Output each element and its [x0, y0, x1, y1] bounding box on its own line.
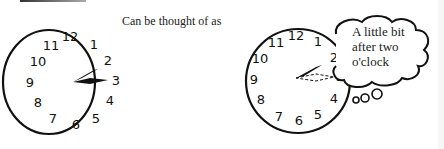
clock-number-5: 5 [314, 107, 322, 122]
clock-number-12: 12 [288, 28, 305, 43]
diagram-canvas: 12 1 2 3 4 5 6 7 8 9 10 11 12 1 2 3 4 5 … [0, 0, 444, 149]
thought-dot-small [353, 97, 359, 103]
clock-number-10: 10 [252, 51, 269, 66]
clock-number-5: 5 [92, 111, 100, 126]
clock-number-11: 11 [43, 38, 60, 53]
clock-number-9: 9 [250, 72, 258, 87]
clock-number-3: 3 [112, 73, 120, 88]
clock-number-6: 6 [72, 117, 80, 132]
thought-text: A little bit after two o'clock [352, 24, 405, 69]
clock-number-6: 6 [295, 113, 303, 128]
caption-text: Can be thought of as [122, 14, 221, 29]
clock-number-12: 12 [62, 29, 79, 44]
minute-hand [73, 78, 108, 84]
thought-dot-medium [361, 94, 369, 102]
clock-number-2: 2 [104, 53, 112, 68]
clock-number-9: 9 [26, 75, 34, 90]
clock-number-10: 10 [30, 54, 47, 69]
clock-number-8: 8 [257, 92, 265, 107]
hour-hand [296, 65, 322, 78]
clock-number-1: 1 [314, 34, 322, 49]
clock-number-7: 7 [275, 109, 283, 124]
thought-dot-large [372, 89, 382, 99]
clock-number-4: 4 [106, 93, 114, 108]
clock-number-7: 7 [49, 111, 57, 126]
left-clock: 12 1 2 3 4 5 6 7 8 9 10 11 [3, 29, 120, 135]
clock-number-8: 8 [34, 95, 42, 110]
clock-number-1: 1 [90, 37, 98, 52]
clock-number-11: 11 [268, 35, 285, 50]
clock-number-4: 4 [330, 91, 338, 106]
right-clock: 12 1 2 3 4 5 6 7 8 9 10 11 [246, 28, 350, 134]
